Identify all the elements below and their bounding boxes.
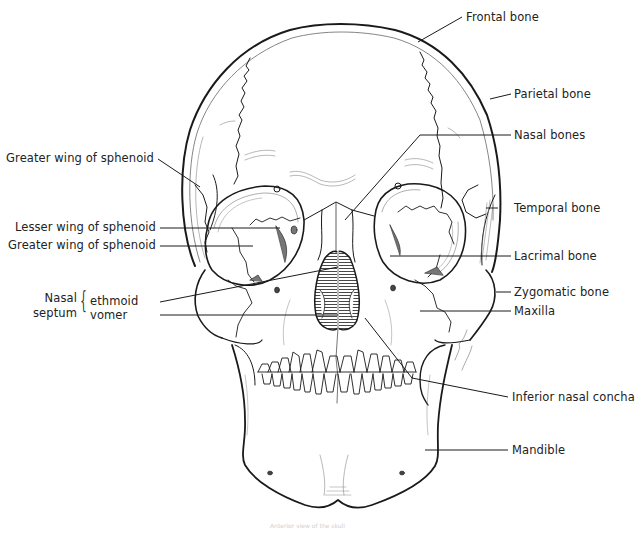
label-temporal-bone: Temporal bone	[514, 202, 600, 215]
label-lacrimal-bone: Lacrimal bone	[514, 250, 597, 263]
label-ethmoid: ethmoid	[90, 295, 138, 308]
mandible-outline	[232, 345, 452, 507]
figure-caption: Anterior view of the skull	[270, 522, 345, 529]
label-parietal-bone: Parietal bone	[514, 88, 591, 101]
leader-inferior-concha-d	[365, 318, 412, 378]
brace-symbol: {	[80, 288, 87, 312]
label-nasal-septum-word1: Nasal	[30, 292, 77, 305]
label-nasal-septum-word2: septum	[30, 307, 77, 320]
label-inferior-nasal-concha: Inferior nasal concha	[512, 391, 635, 404]
leader-inferior-concha-h	[412, 378, 508, 397]
label-vomer: vomer	[90, 309, 127, 322]
leader-greater-wing-upper	[158, 159, 200, 187]
label-mandible: Mandible	[512, 444, 565, 457]
label-zygomatic-bone: Zygomatic bone	[514, 286, 609, 299]
leader-nasal-bones-d	[345, 135, 420, 220]
label-lesser-wing-sphenoid: Lesser wing of sphenoid	[4, 221, 156, 234]
label-frontal-bone: Frontal bone	[466, 11, 539, 24]
label-maxilla: Maxilla	[514, 305, 555, 318]
right-orbit	[374, 184, 465, 283]
label-nasal-bones: Nasal bones	[514, 129, 585, 142]
leader-frontal	[418, 17, 462, 42]
skull-diagram: Frontal bone Parietal bone Nasal bones G…	[0, 0, 639, 534]
label-greater-wing-sphenoid-upper: Greater wing of sphenoid	[4, 152, 154, 165]
label-greater-wing-sphenoid-lower: Greater wing of sphenoid	[4, 239, 156, 252]
leader-parietal	[490, 94, 511, 99]
